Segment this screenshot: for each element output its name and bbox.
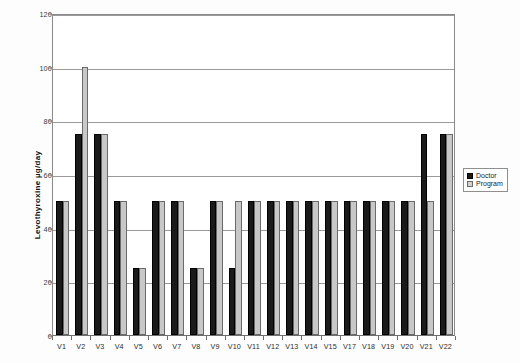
x-tick-label: V22 — [439, 342, 452, 351]
bar-program — [120, 201, 127, 335]
bar-doctor — [133, 268, 140, 335]
y-axis: 020406080100120 — [14, 14, 52, 336]
bar-program — [446, 134, 453, 335]
bar-group — [322, 15, 341, 335]
x-tick-label: V1 — [57, 342, 66, 351]
bar-program — [197, 268, 204, 335]
bar-program — [389, 201, 396, 335]
bar-doctor — [210, 201, 217, 335]
x-tick-mark — [378, 336, 379, 340]
bar-doctor — [382, 201, 389, 335]
bar-group — [207, 15, 226, 335]
bar-program — [254, 201, 261, 335]
bar-program — [408, 201, 415, 335]
x-tick-mark — [244, 336, 245, 340]
bar-group — [168, 15, 187, 335]
x-tick-mark — [71, 336, 72, 340]
bar-chart: Levothyroxine µg/day 020406080100120 V1V… — [0, 0, 520, 363]
legend-item-program: Program — [467, 180, 503, 187]
bar-program — [293, 201, 300, 335]
x-tick-label: V12 — [266, 342, 279, 351]
bar-doctor — [56, 201, 63, 335]
x-tick-label: V17 — [343, 342, 356, 351]
legend-label-program: Program — [476, 180, 503, 187]
x-axis: V1V2V3V4V5V6V7V8V9V10V11V12V13V14V15V17V… — [52, 336, 455, 360]
bar-group — [149, 15, 168, 335]
x-tick-mark — [321, 336, 322, 340]
x-tick-mark — [90, 336, 91, 340]
x-tick-mark — [301, 336, 302, 340]
bar-group — [245, 15, 264, 335]
x-tick-mark — [186, 336, 187, 340]
bar-program — [427, 201, 434, 335]
bar-doctor — [114, 201, 121, 335]
bar-doctor — [363, 201, 370, 335]
bar-program — [235, 201, 242, 335]
bar-program — [331, 201, 338, 335]
x-tick-mark — [455, 336, 456, 340]
bar-group — [111, 15, 130, 335]
x-tick-mark — [167, 336, 168, 340]
x-tick-mark — [417, 336, 418, 340]
x-tick-label: V11 — [247, 342, 260, 351]
bar-doctor — [190, 268, 197, 335]
bar-program — [178, 201, 185, 335]
black-square-icon — [467, 173, 473, 179]
bar-doctor — [286, 201, 293, 335]
gray-square-icon — [467, 181, 473, 187]
bar-doctor — [75, 134, 82, 335]
x-tick-label: V7 — [172, 342, 181, 351]
x-tick-mark — [340, 336, 341, 340]
x-tick-label: V5 — [134, 342, 143, 351]
x-tick-mark — [148, 336, 149, 340]
x-tick-mark — [225, 336, 226, 340]
legend-label-doctor: Doctor — [476, 172, 497, 179]
bar-doctor — [401, 201, 408, 335]
x-tick-mark — [110, 336, 111, 340]
bar-program — [274, 201, 281, 335]
bar-program — [350, 201, 357, 335]
bar-doctor — [325, 201, 332, 335]
x-tick-mark — [206, 336, 207, 340]
x-tick-label: V13 — [285, 342, 298, 351]
bar-doctor — [344, 201, 351, 335]
bar-group — [91, 15, 110, 335]
chart-legend: Doctor Program — [463, 168, 508, 192]
x-tick-mark — [129, 336, 130, 340]
bar-group — [379, 15, 398, 335]
bar-program — [63, 201, 70, 335]
bar-group — [398, 15, 417, 335]
bar-doctor — [421, 134, 428, 335]
bar-group — [418, 15, 437, 335]
bar-doctor — [152, 201, 159, 335]
bars-layer — [53, 15, 454, 335]
x-tick-label: V6 — [153, 342, 162, 351]
x-tick-mark — [359, 336, 360, 340]
x-tick-mark — [436, 336, 437, 340]
x-tick-label: V8 — [191, 342, 200, 351]
bar-group — [264, 15, 283, 335]
bar-group — [283, 15, 302, 335]
x-tick-label: V19 — [381, 342, 394, 351]
legend-item-doctor: Doctor — [467, 172, 503, 179]
x-tick-mark — [263, 336, 264, 340]
x-tick-label: V18 — [362, 342, 375, 351]
x-tick-label: V14 — [305, 342, 318, 351]
x-tick-label: V2 — [76, 342, 85, 351]
x-tick-label: V3 — [95, 342, 104, 351]
bar-group — [302, 15, 321, 335]
bar-group — [341, 15, 360, 335]
bar-doctor — [229, 268, 236, 335]
x-tick-mark — [282, 336, 283, 340]
x-tick-label: V9 — [211, 342, 220, 351]
bar-doctor — [305, 201, 312, 335]
bar-group — [130, 15, 149, 335]
x-tick-label: V4 — [115, 342, 124, 351]
bar-doctor — [440, 134, 447, 335]
bar-group — [72, 15, 91, 335]
bar-program — [101, 134, 108, 335]
bar-program — [312, 201, 319, 335]
x-tick-mark — [397, 336, 398, 340]
bar-group — [360, 15, 379, 335]
plot-area — [52, 14, 455, 336]
